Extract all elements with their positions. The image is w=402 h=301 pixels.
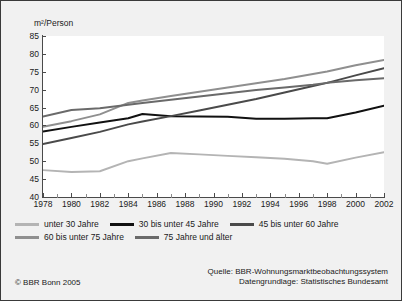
x-tick-mark-minor xyxy=(199,194,200,198)
x-tick-label: 1996 xyxy=(284,200,314,209)
y-tick-mark xyxy=(42,36,46,37)
x-tick-mark-major xyxy=(356,193,357,198)
x-tick-mark-minor xyxy=(370,194,371,198)
x-tick-mark-major xyxy=(299,193,300,198)
x-tick-mark-major xyxy=(242,193,243,198)
x-tick-mark-major xyxy=(100,193,101,198)
series-line xyxy=(43,152,384,172)
legend-row: 60 bis unter 75 Jahre75 Jahre und älter xyxy=(15,233,391,242)
y-tick-mark xyxy=(42,125,46,126)
y-tick-label: 80 xyxy=(3,50,39,58)
y-tick-label: 45 xyxy=(3,175,39,183)
legend-label: 30 bis unter 45 Jahre xyxy=(139,220,219,229)
y-axis-tick-labels: 40455055606570758085 xyxy=(1,1,39,301)
legend-swatch xyxy=(15,236,39,239)
y-tick-label: 85 xyxy=(3,32,39,40)
x-tick-mark-major xyxy=(270,193,271,198)
legend-item[interactable]: 45 bis unter 60 Jahre xyxy=(230,220,339,229)
x-tick-label: 1984 xyxy=(113,200,143,209)
x-tick-label: 1982 xyxy=(85,200,115,209)
x-tick-mark-minor xyxy=(114,194,115,198)
x-tick-mark-minor xyxy=(86,194,87,198)
x-tick-label: 1986 xyxy=(142,200,172,209)
x-tick-mark-major xyxy=(214,193,215,198)
chart-legend: unter 30 Jahre30 bis unter 45 Jahre45 bi… xyxy=(15,220,391,246)
legend-label: unter 30 Jahre xyxy=(44,220,99,229)
y-tick-label: 55 xyxy=(3,139,39,147)
y-tick-mark xyxy=(42,179,46,180)
x-tick-mark-major xyxy=(327,193,328,198)
y-tick-mark xyxy=(42,108,46,109)
x-tick-mark-minor xyxy=(341,194,342,198)
copyright-text: © BBR Bonn 2005 xyxy=(15,278,81,287)
y-tick-label: 70 xyxy=(3,86,39,94)
y-tick-mark xyxy=(42,90,46,91)
plot-area xyxy=(43,36,384,197)
x-tick-mark-major xyxy=(128,193,129,198)
x-tick-mark-minor xyxy=(285,194,286,198)
legend-swatch xyxy=(135,236,159,239)
y-tick-label: 60 xyxy=(3,121,39,129)
source-note: Quelle: BBR-Wohnungsmarktbeobachtungssys… xyxy=(208,267,388,287)
source-line-1: Quelle: BBR-Wohnungsmarktbeobachtungssys… xyxy=(208,267,388,277)
legend-label: 45 bis unter 60 Jahre xyxy=(259,220,339,229)
series-line xyxy=(43,68,384,144)
legend-item[interactable]: unter 30 Jahre xyxy=(15,220,99,229)
y-tick-label: 75 xyxy=(3,68,39,76)
x-tick-mark-minor xyxy=(142,194,143,198)
x-tick-label: 1992 xyxy=(227,200,257,209)
source-line-2: Datengrundlage: Statistisches Bundesamt xyxy=(208,277,388,287)
y-tick-label: 65 xyxy=(3,104,39,112)
x-tick-label: 1978 xyxy=(28,200,58,209)
legend-label: 60 bis unter 75 Jahre xyxy=(44,233,124,242)
x-tick-mark-minor xyxy=(228,194,229,198)
x-tick-mark-major xyxy=(384,193,385,198)
x-tick-label: 1990 xyxy=(199,200,229,209)
line-series-group xyxy=(43,36,384,197)
x-tick-mark-major xyxy=(43,193,44,198)
y-tick-mark xyxy=(42,143,46,144)
y-tick-mark xyxy=(42,72,46,73)
legend-row: unter 30 Jahre30 bis unter 45 Jahre45 bi… xyxy=(15,220,391,229)
legend-item[interactable]: 60 bis unter 75 Jahre xyxy=(15,233,124,242)
legend-item[interactable]: 75 Jahre und älter xyxy=(135,233,233,242)
x-tick-mark-major xyxy=(71,193,72,198)
x-tick-mark-major xyxy=(157,193,158,198)
y-tick-mark xyxy=(42,161,46,162)
y-tick-mark xyxy=(42,54,46,55)
x-tick-mark-minor xyxy=(171,194,172,198)
x-tick-mark-minor xyxy=(313,194,314,198)
x-tick-label: 1980 xyxy=(56,200,86,209)
series-line xyxy=(43,106,384,132)
x-tick-label: 2002 xyxy=(369,200,399,209)
x-tick-mark-major xyxy=(185,193,186,198)
y-tick-label: 50 xyxy=(3,157,39,165)
legend-item[interactable]: 30 bis unter 45 Jahre xyxy=(110,220,219,229)
series-line xyxy=(43,78,384,116)
y-axis-unit-label: m²/Person xyxy=(34,18,73,28)
chart-figure: m²/Person 40455055606570758085 unter 30 … xyxy=(0,0,402,301)
x-tick-label: 2000 xyxy=(341,200,371,209)
x-tick-label: 1998 xyxy=(312,200,342,209)
legend-swatch xyxy=(110,223,134,226)
legend-swatch xyxy=(15,223,39,226)
x-tick-mark-minor xyxy=(57,194,58,198)
x-tick-mark-minor xyxy=(256,194,257,198)
legend-label: 75 Jahre und älter xyxy=(164,233,233,242)
x-tick-label: 1994 xyxy=(255,200,285,209)
legend-swatch xyxy=(230,223,254,226)
x-tick-label: 1988 xyxy=(170,200,200,209)
